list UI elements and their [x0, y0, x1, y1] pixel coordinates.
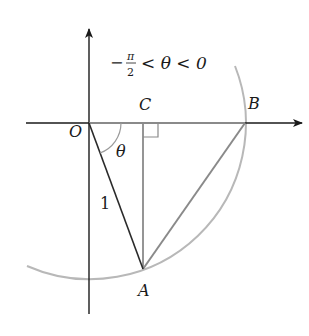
condition-pi: π [126, 50, 135, 63]
label-theta: θ [116, 142, 126, 161]
unit-circle-diagram: O C B A θ 1 − π 2 < θ < 0 [0, 0, 309, 336]
chord-ab [143, 123, 245, 269]
condition-two: 2 [127, 66, 134, 79]
label-b: B [247, 94, 260, 113]
condition-rest: < θ < 0 [141, 53, 207, 73]
label-a: A [136, 281, 150, 300]
condition-minus: − [110, 53, 123, 72]
right-angle-marker [143, 123, 158, 137]
label-c: C [139, 95, 151, 114]
unit-circle-arc [27, 66, 246, 279]
label-radius: 1 [100, 194, 110, 213]
label-origin: O [69, 122, 82, 141]
angle-condition: − π 2 < θ < 0 [110, 50, 207, 79]
